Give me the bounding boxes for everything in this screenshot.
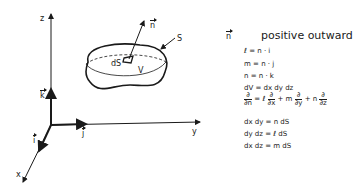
normal-label: n (150, 22, 155, 30)
i-label: i (33, 137, 35, 145)
eq-dydz: dy dz = ℓ dS (244, 130, 287, 138)
legend-normal-symbol: n (226, 33, 231, 41)
eq-dV: dV = dx dy dz (244, 84, 293, 92)
surface-element-dS (123, 56, 133, 63)
normal-vector (129, 21, 144, 59)
surface-S (86, 44, 167, 89)
legend-title: positive outward (261, 29, 353, 42)
y-axis-label: y (192, 128, 197, 136)
i-unit-vector (39, 125, 51, 151)
volume-label: V (138, 67, 143, 75)
eq-dxdy: dx dy = n dS (244, 118, 289, 126)
j-unit-vector (51, 124, 86, 125)
eq-dxdz: dx dz = m dS (244, 142, 291, 150)
surface-pointer (161, 38, 175, 49)
dS-label: dS (111, 60, 121, 68)
eq-n: n = n · k (244, 72, 274, 80)
j-label: j (82, 130, 84, 138)
k-label: k (40, 92, 45, 100)
eq-m: m = n · j (244, 60, 274, 68)
z-axis-label: z (40, 15, 44, 23)
eq-l: ℓ = n · i (244, 47, 270, 55)
eq-directional-derivative: ∂∂n = ℓ ∂∂x + m ∂∂y + n ∂∂z (244, 92, 327, 107)
surface-label: S (177, 35, 182, 43)
x-axis-label: x (16, 171, 21, 179)
equator-front (86, 62, 166, 76)
